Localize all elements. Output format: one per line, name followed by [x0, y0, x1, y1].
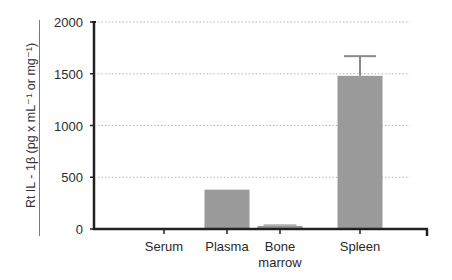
y-tick-label: 2000 [54, 15, 83, 30]
x-tick-label: Serum [145, 239, 183, 254]
y-tick-label: 1500 [54, 67, 83, 82]
bar-spleen [338, 76, 383, 229]
y-tick-label: 1000 [54, 119, 83, 134]
y-tick-label: 500 [61, 170, 83, 185]
x-tick-label: Bone [265, 239, 295, 254]
x-tick-label: marrow [258, 255, 302, 270]
bar-chart: 0500100015002000SerumPlasmaBonemarrowSpl… [0, 0, 452, 280]
error-bar [264, 224, 297, 226]
bar-plasma [205, 190, 250, 229]
x-tick-label: Plasma [205, 239, 249, 254]
y-tick-label: 0 [76, 222, 83, 237]
x-tick-label: Spleen [340, 239, 380, 254]
